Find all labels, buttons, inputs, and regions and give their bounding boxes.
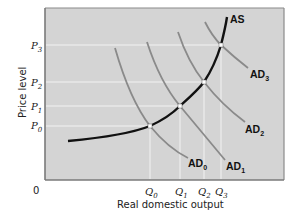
y-tick-p2: P2: [30, 77, 43, 91]
y-axis-title: Price level: [17, 67, 28, 118]
plot-area: [45, 8, 284, 180]
eq-point-3: [219, 43, 223, 47]
aggregate-supply-demand-chart: AS AD3 AD2 AD0 AD1 P3 P2 P1 P0 Q0 Q1 Q2 …: [0, 0, 294, 224]
y-tick-p0: P0: [30, 120, 43, 134]
eq-point-2: [202, 80, 206, 84]
origin-label: 0: [33, 185, 39, 196]
y-tick-p3: P3: [30, 40, 43, 54]
eq-point-0: [148, 124, 152, 128]
x-axis-title: Real domestic output: [117, 199, 224, 210]
x-tick-q0: Q0: [145, 186, 158, 200]
x-tick-q1: Q1: [175, 186, 188, 200]
as-label: AS: [230, 13, 245, 25]
x-tick-q2: Q2: [198, 186, 211, 200]
x-tick-q3: Q3: [215, 186, 228, 200]
y-tick-p1: P1: [30, 101, 42, 115]
eq-point-1: [178, 104, 182, 108]
